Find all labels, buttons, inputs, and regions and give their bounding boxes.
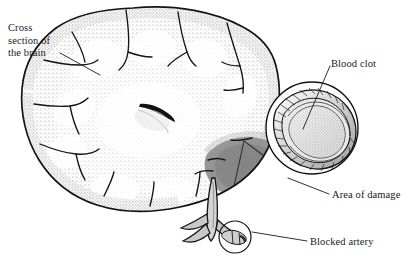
label-cross-section-of-the-brain: Cross section of the brain — [8, 22, 50, 60]
brain-stroke-illustration: Cross section of the brain Blood clot Ar… — [0, 0, 416, 264]
blocked-artery-marker — [219, 221, 251, 253]
brain-cross-section — [18, 0, 296, 218]
label-blocked-artery: Blocked artery — [310, 236, 374, 249]
leader-area-of-damage — [288, 178, 329, 194]
illustration-canvas — [0, 0, 416, 264]
leader-blocked-artery — [252, 232, 307, 241]
label-area-of-damage: Area of damage — [332, 189, 400, 202]
artery-magnification-inset — [266, 82, 358, 174]
label-blood-clot: Blood clot — [331, 58, 376, 71]
